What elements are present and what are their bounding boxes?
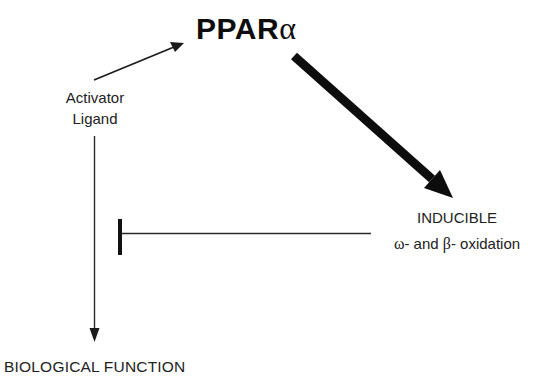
edge-oxidation-inhibits-pathway — [120, 219, 371, 255]
node-ppar-alpha: PPARα — [196, 10, 296, 47]
diagram-edges — [0, 0, 539, 385]
ligand-label: Ligand — [53, 108, 137, 129]
down-arrowhead-icon — [90, 328, 100, 342]
alpha-symbol: α — [279, 10, 296, 46]
omega-symbol: ω — [394, 235, 405, 252]
edge-ppar-to-oxidation — [294, 56, 453, 198]
edge-activator-to-ppar — [94, 42, 184, 80]
node-activator-ligand: Activator Ligand — [53, 87, 137, 129]
inducible-label: INDUCIBLE — [373, 205, 539, 231]
and-text: - and — [404, 235, 442, 252]
ppar-label: PPAR — [196, 12, 279, 45]
node-biological-function: BIOLOGICAL FUNCTION — [4, 358, 186, 376]
oxidation-label: ω- and β- oxidation — [373, 231, 539, 257]
edge-activator-to-biological-function — [90, 136, 100, 342]
activator-label: Activator — [53, 87, 137, 108]
node-inducible-oxidation: INDUCIBLE ω- and β- oxidation — [373, 205, 539, 257]
oxidation-text: - oxidation — [451, 235, 520, 252]
ppar-alpha-pathway-diagram: PPARα Activator Ligand INDUCIBLE ω- and … — [0, 0, 539, 385]
beta-symbol: β — [443, 235, 451, 252]
